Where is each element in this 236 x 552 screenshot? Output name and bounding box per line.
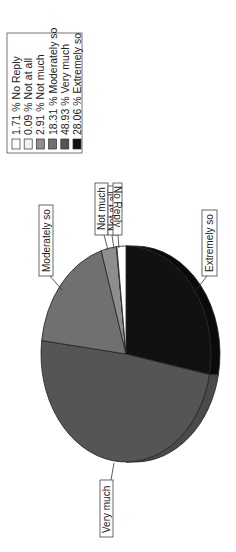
label-no-reply: No Reply [112,183,123,235]
svg-text:No Reply: No Reply [112,186,123,227]
legend-swatch [73,139,81,149]
legend: 1.71 % No Reply0.09 % Not at all2.91 % N… [7,27,83,153]
label-moderately-so: Moderately so [39,205,53,276]
legend-swatch [24,139,32,149]
svg-text:Extremely so: Extremely so [204,214,215,272]
legend-swatch [61,139,69,149]
label-extremely-so: Extremely so [202,210,217,276]
legend-label: 2.91 % Not much [34,54,46,135]
svg-text:Not much: Not much [96,187,107,230]
legend-label: 48.93 % Very much [59,44,71,135]
pie-slice-extremely-so [126,246,211,375]
legend-label: 18.31 % Moderately so [47,27,59,135]
legend-label: 1.71 % No Reply [10,55,22,135]
legend-swatch [49,139,57,149]
svg-text:Moderately so: Moderately so [41,209,52,272]
legend-swatch [12,139,20,149]
legend-label: 0.09 % Not at all [22,58,34,135]
legend-swatch [36,139,44,149]
label-very-much: Very much [100,480,113,537]
svg-text:Very much: Very much [101,486,112,533]
pie-chart: 1.71 % No Reply0.09 % Not at all2.91 % N… [0,0,236,552]
pie-slices [41,246,211,462]
legend-label: 28.06 % Extremely so [71,33,83,135]
